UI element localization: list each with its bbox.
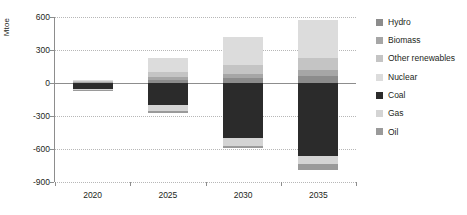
legend-label: Gas: [388, 109, 404, 118]
bar-segment[interactable]: [298, 76, 338, 83]
legend-swatch-icon: [376, 55, 383, 62]
legend-swatch-icon: [376, 74, 383, 81]
x-tick-mark: [206, 182, 207, 186]
legend-item-oil[interactable]: Oil: [376, 123, 466, 141]
legend-item-gas[interactable]: Gas: [376, 104, 466, 122]
chart-legend: HydroBiomassOther renewablesNuclearCoalG…: [376, 13, 466, 141]
x-tick-mark: [356, 182, 357, 186]
x-tick-label-2035: 2035: [288, 190, 348, 200]
x-tick-label-2020: 2020: [63, 190, 123, 200]
bar-segment[interactable]: [298, 164, 338, 170]
y-tick-mark: [50, 182, 54, 183]
legend-swatch-icon: [376, 92, 383, 99]
bar-segment[interactable]: [73, 81, 113, 82]
bar-segment[interactable]: [148, 83, 188, 105]
bar-group[interactable]: [148, 17, 188, 182]
x-tick-label-2030: 2030: [213, 190, 273, 200]
bar-segment[interactable]: [298, 58, 338, 70]
legend-label: Nuclear: [388, 73, 417, 82]
bar-segment[interactable]: [148, 111, 188, 113]
y-tick-label: -600: [10, 144, 50, 154]
bar-segment[interactable]: [223, 138, 263, 146]
bar-segment[interactable]: [223, 74, 263, 79]
bar-segment[interactable]: [223, 146, 263, 148]
legend-item-other-renewables[interactable]: Other renewables: [376, 50, 466, 68]
legend-label: Other renewables: [388, 54, 455, 63]
bar-group[interactable]: [223, 17, 263, 182]
plot-area: [55, 17, 356, 182]
legend-swatch-icon: [376, 37, 383, 44]
legend-item-biomass[interactable]: Biomass: [376, 31, 466, 49]
stacked-bar-chart: Mtoe 6003000-300-600-900 202020252030203…: [0, 0, 467, 215]
bar-segment[interactable]: [298, 70, 338, 76]
y-tick-label: -300: [10, 111, 50, 121]
y-tick-label: -900: [10, 177, 50, 187]
legend-item-coal[interactable]: Coal: [376, 86, 466, 104]
y-tick-label: 600: [10, 12, 50, 22]
legend-label: Biomass: [388, 36, 421, 45]
bar-group[interactable]: [298, 17, 338, 182]
bar-segment[interactable]: [73, 80, 113, 81]
bar-segment[interactable]: [223, 83, 263, 138]
legend-label: Oil: [388, 128, 398, 137]
bar-segment[interactable]: [223, 37, 263, 66]
legend-label: Coal: [388, 91, 405, 100]
bar-segment[interactable]: [298, 20, 338, 58]
legend-swatch-icon: [376, 110, 383, 117]
y-tick-label: 300: [10, 45, 50, 55]
bar-segment[interactable]: [298, 156, 338, 165]
x-tick-label-2025: 2025: [138, 190, 198, 200]
bar-segment[interactable]: [148, 58, 188, 72]
bar-segment[interactable]: [298, 83, 338, 156]
legend-item-nuclear[interactable]: Nuclear: [376, 68, 466, 86]
x-tick-mark: [55, 182, 56, 186]
bar-group[interactable]: [73, 17, 113, 182]
bar-segment[interactable]: [223, 65, 263, 73]
legend-label: Hydro: [388, 18, 411, 27]
bar-segment[interactable]: [148, 77, 188, 80]
legend-swatch-icon: [376, 19, 383, 26]
bar-segment[interactable]: [148, 72, 188, 77]
legend-item-hydro[interactable]: Hydro: [376, 13, 466, 31]
x-tick-mark: [130, 182, 131, 186]
legend-swatch-icon: [376, 128, 383, 135]
y-axis-ticks: 6003000-300-600-900: [0, 17, 50, 182]
bar-segment[interactable]: [73, 90, 113, 91]
x-tick-mark: [281, 182, 282, 186]
y-tick-label: 0: [10, 78, 50, 88]
